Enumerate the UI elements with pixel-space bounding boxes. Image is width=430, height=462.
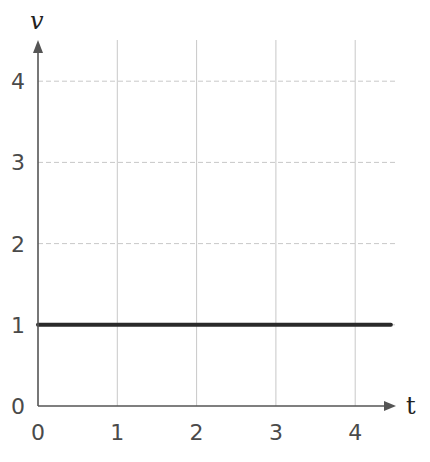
y-tick-label: 2: [11, 232, 25, 257]
y-axis-label: v: [30, 7, 44, 35]
x-axis-label: t: [406, 392, 416, 420]
x-tick-label: 3: [269, 420, 283, 445]
y-tick-labels: 01234: [11, 69, 25, 419]
y-tick-label: 0: [11, 394, 25, 419]
x-tick-label: 2: [190, 420, 204, 445]
y-tick-label: 1: [11, 313, 25, 338]
velocity-time-chart: t v 01234 01234: [0, 0, 430, 462]
axes: t v: [30, 7, 416, 420]
x-tick-labels: 01234: [31, 420, 362, 445]
y-tick-label: 3: [11, 150, 25, 175]
x-axis-arrow-icon: [384, 401, 396, 411]
x-tick-label: 1: [110, 420, 124, 445]
grid: [38, 40, 395, 406]
y-axis-arrow-icon: [33, 40, 43, 53]
y-tick-label: 4: [11, 69, 25, 94]
x-tick-label: 4: [348, 420, 362, 445]
x-tick-label: 0: [31, 420, 45, 445]
